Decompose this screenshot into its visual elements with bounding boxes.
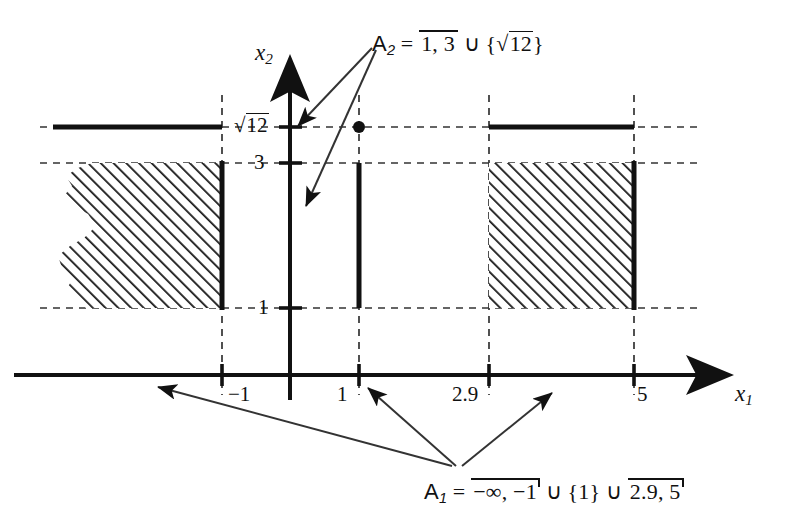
a2-brace-open: { — [486, 31, 497, 56]
a2-radical-sign: √ — [496, 31, 508, 56]
a1-equals: = — [453, 479, 466, 504]
a1-union-2: ∪ — [606, 479, 622, 504]
a2-brace-close: } — [533, 31, 544, 56]
y-tick-label-3: 3 — [254, 150, 265, 175]
point-1-sqrt12 — [353, 121, 365, 133]
x-tick-label-minus1: −1 — [228, 382, 250, 407]
a1-interval-2: 2.9, 5 — [628, 478, 684, 503]
y-tick-label-sqrt12: √12 — [234, 113, 269, 138]
a1-interval-1: −∞, −1 — [471, 478, 540, 503]
a1-leader-arrows — [158, 387, 552, 466]
a2-union: ∪ — [464, 31, 480, 56]
hatched-regions — [40, 163, 634, 308]
a2-annotation: A2 = 1, 3 ∪ {√12} — [372, 30, 544, 58]
x-axis-label: x1 — [735, 381, 753, 409]
diagram-svg — [0, 0, 790, 531]
x-tick-label-5: 5 — [637, 382, 648, 407]
a2-interval: 1, 3 — [419, 30, 458, 55]
x-tick-label-1: 1 — [337, 382, 348, 407]
a2-equals: = — [401, 31, 414, 56]
x-tick-label-29: 2.9 — [452, 382, 478, 407]
a2-radicand: 12 — [509, 31, 533, 56]
y-tick-label-1: 1 — [258, 295, 269, 320]
a1-brace-open: { — [567, 479, 578, 504]
a1-union-1: ∪ — [546, 479, 562, 504]
a1-annotation: A1 = −∞, −1 ∪ {1} ∪ 2.9, 5 — [424, 478, 684, 506]
right-hatched-band — [489, 163, 634, 308]
a1-set-name: A1 — [424, 479, 447, 504]
y-axis-label: x2 — [255, 40, 273, 68]
a1-brace-close: } — [589, 479, 600, 504]
a1-singleton: 1 — [578, 479, 589, 504]
a2-set-name: A2 — [372, 31, 395, 56]
figure-canvas: x2 x1 √12 3 1 −1 1 2.9 5 A2 = 1, 3 ∪ {√1… — [0, 0, 790, 531]
